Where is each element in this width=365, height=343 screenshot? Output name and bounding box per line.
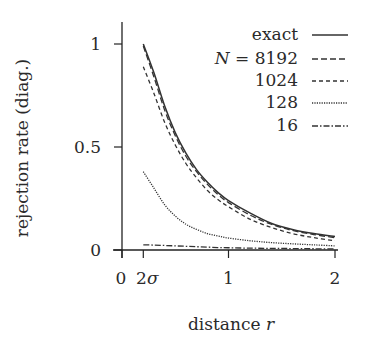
line-chart: 00.51 02σ12 exactN = 8192102412816 rejec… [0,0,365,343]
legend: exactN = 8192102412816 [214,24,348,135]
x-axis-label-text: distance [188,314,266,334]
x-axis-label: distance r [188,314,275,334]
legend-label: N = 8192 [214,48,298,68]
y-tick-label: 0 [90,240,101,260]
series-line-n-8192 [143,46,335,238]
x-tick-label: 0 [116,268,127,288]
series-line-n-1024 [143,67,335,241]
series-line-exact [143,44,335,237]
x-tick-label: 2 [330,268,341,288]
legend-label: 1024 [255,70,298,90]
x-tick-label: 2σ [136,268,159,288]
series-lines [143,44,335,249]
legend-label: 16 [276,115,298,135]
y-axis-label: rejection rate (diag.) [12,59,32,237]
y-tick-label: 0.5 [74,137,101,157]
x-tick-label: 1 [223,268,234,288]
x-axis-label-variable: r [266,314,275,334]
legend-label: 128 [266,92,298,112]
x-ticks: 02σ12 [116,250,341,288]
series-line-n-16 [143,245,335,249]
y-ticks: 00.51 [74,34,122,260]
legend-label: exact [252,24,298,44]
y-tick-label: 1 [90,34,101,54]
